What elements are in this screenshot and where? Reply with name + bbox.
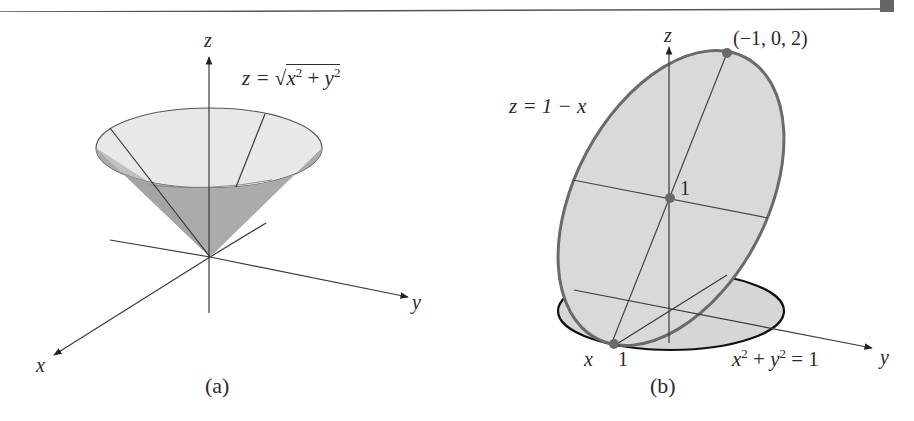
panel-a-caption: (a) [205,375,229,397]
panel-a-y-label: y [412,292,421,312]
plane-equation: z = 1 − x [509,96,586,117]
point-center [665,193,675,203]
y-axis-a [210,257,408,297]
panel-b-caption: (b) [650,375,676,397]
panel-a-z-label: z [204,30,212,50]
panel-a-x-label: x [36,355,45,375]
cylinder-equation: x2 + y2 = 1 [732,347,819,370]
panel-b-x-label: x [584,349,593,369]
panel-b-ellipse [512,13,872,384]
point-center-label: 1 [680,178,690,198]
point-top-label: (−1, 0, 2) [733,28,808,48]
panel-b-y-label: y [880,347,889,367]
point-bottom-label: 1 [618,349,628,369]
x-axis-a [54,257,210,355]
panel-b-z-label: z [664,25,672,45]
panel-a-equation: z = √x2 + y2 [242,64,340,89]
figure: z y x z = √x2 + y2 (a) z (−1, 0, 2) z = … [0,0,914,421]
point-top [722,48,732,58]
panel-a-cone [54,57,408,355]
